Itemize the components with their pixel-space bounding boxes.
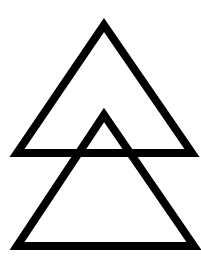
triangle-symbol-diagram — [0, 0, 201, 268]
